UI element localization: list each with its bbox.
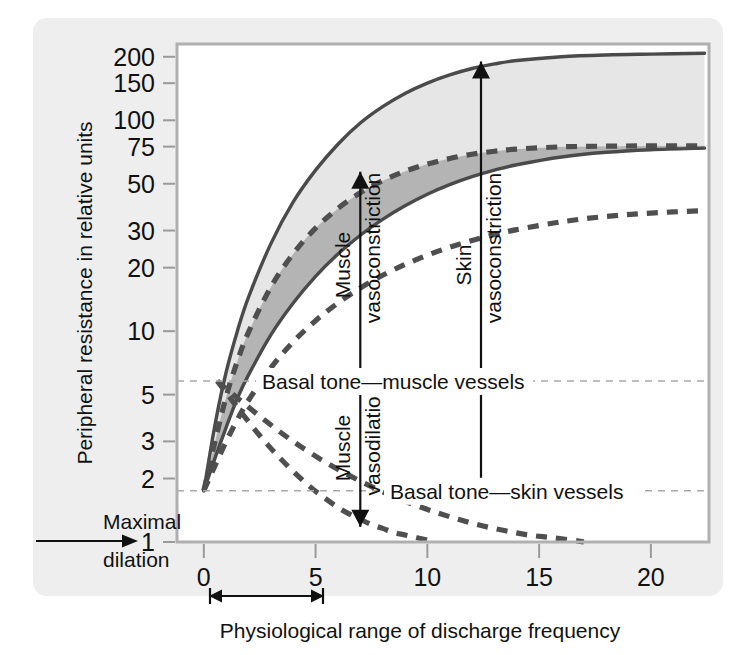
y-tick-label-10: 10	[127, 317, 155, 345]
maximal-dilation-line1: Maximal	[103, 510, 181, 533]
x-tick-label-5: 5	[309, 563, 323, 591]
skin-vasoconstriction-label-2: vasoconstriction	[482, 173, 505, 324]
x-tick-label-15: 15	[525, 563, 553, 591]
basal-tone-skin-vessels-label: Basal tone—skin vessels	[390, 480, 623, 503]
figure-container: 12351020305075100150200 05101520 Musclev…	[0, 0, 739, 655]
muscle-vasoconstriction-label-2: vasoconstriction	[361, 173, 384, 324]
skin-vasoconstriction-label-1: Skin	[452, 245, 475, 286]
muscle-vasoconstriction-label-1: Muscle	[331, 232, 354, 299]
y-tick-label-50: 50	[127, 170, 155, 198]
maximal-dilation-line2: dilation	[103, 548, 170, 571]
y-axis-title: Peripheral resistance in relative units	[73, 121, 96, 464]
y-tick-label-100: 100	[113, 106, 155, 134]
x-axis-title: Physiological range of discharge frequen…	[220, 619, 621, 642]
basal-tone-muscle-vessels-label: Basal tone—muscle vessels	[262, 370, 525, 393]
chart-svg: 12351020305075100150200 05101520 Musclev…	[0, 0, 739, 655]
muscle-vasodilation-label-1: Muscle	[331, 415, 354, 482]
x-tick-label-0: 0	[197, 563, 211, 591]
x-tick-label-10: 10	[413, 563, 441, 591]
y-tick-label-200: 200	[113, 43, 155, 71]
x-tick-label-20: 20	[637, 563, 665, 591]
y-tick-label-20: 20	[127, 254, 155, 282]
muscle-vasodilation-label-2: vasodilation	[361, 385, 384, 496]
y-tick-label-150: 150	[113, 69, 155, 97]
y-tick-label-5: 5	[141, 381, 155, 409]
y-tick-label-3: 3	[141, 427, 155, 455]
y-tick-label-2: 2	[141, 465, 155, 493]
y-tick-label-75: 75	[127, 133, 155, 161]
y-tick-label-30: 30	[127, 217, 155, 245]
